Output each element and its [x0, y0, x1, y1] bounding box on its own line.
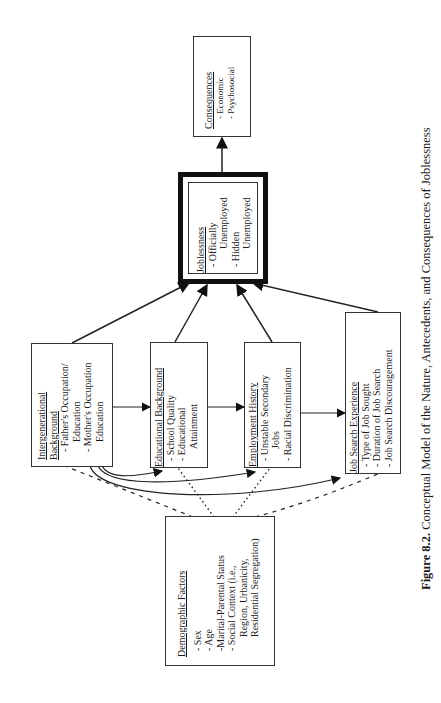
- figure-caption-text: Conceptual Model of the Nature, Antecede…: [419, 127, 433, 529]
- consequences-item: - Psychosocial: [226, 67, 238, 129]
- consequences-box: Consequences - Economic - Psychosocial: [193, 36, 251, 137]
- joblessness-item: Unemployed: [218, 197, 230, 273]
- demographic-item: - Age: [203, 538, 215, 657]
- joblessness-item: Unemployed: [241, 197, 253, 273]
- employment-title: Employment History: [247, 367, 259, 467]
- educational-title: Educational Background: [153, 368, 165, 467]
- educational-item: Attainment: [188, 368, 200, 467]
- consequences-item: - Economic: [215, 67, 227, 129]
- jobsearch-item: - Job Search Discouragement: [383, 350, 395, 473]
- intergenerational-item: - Mother's Occupation: [82, 362, 94, 460]
- employment-item: Jobs: [270, 367, 282, 467]
- employment-history-box: Employment History - Unstable Secondary …: [244, 342, 301, 468]
- joblessness-box: Joblessness - Officially Unemployed - Hi…: [178, 172, 268, 284]
- demographic-item: Residential Segregation): [249, 538, 261, 657]
- dashed-demo-to-jobsearch: [255, 473, 380, 517]
- intergenerational-title: Background: [48, 362, 60, 460]
- employment-item: - Racial Discrimination: [282, 367, 294, 467]
- jobsearch-item: - Duration of Job Search: [371, 350, 383, 473]
- demographic-item: - Sex: [192, 538, 204, 657]
- demographic-item: Region, Urbanicity,: [238, 538, 250, 657]
- arrow-intergen-to-joblessness: [72, 283, 189, 343]
- joblessness-title: Joblessness: [195, 197, 207, 273]
- dashed-demo-to-intergen: [65, 466, 193, 517]
- arrow-employ-to-joblessness: [237, 285, 272, 342]
- jobsearch-item: - Type of Job Sought: [360, 350, 372, 473]
- arrow-educ-to-joblessness: [175, 285, 207, 342]
- employment-item: - Unstable Secondary: [259, 367, 271, 467]
- arrow-jobsearch-to-joblessness: [253, 283, 378, 312]
- dotted-demo-to-educ: [178, 468, 214, 517]
- educational-item: - Educational: [176, 368, 188, 467]
- educational-item: - School Quality: [165, 368, 177, 467]
- intergenerational-item: Education: [94, 362, 106, 460]
- demographic-title: Demographic Factors: [176, 538, 188, 657]
- job-search-experience-box: Job Search Experience - Type of Job Soug…: [345, 312, 401, 474]
- figure-caption: Figure 8.2. Conceptual Model of the Natu…: [419, 127, 434, 590]
- educational-background-box: Educational Background - School Quality …: [150, 342, 208, 468]
- joblessness-item: - Officially: [207, 197, 219, 273]
- intergenerational-item: Education: [71, 362, 83, 460]
- figure-label: Figure 8.2.: [419, 533, 433, 590]
- jobsearch-title: Job Search Experience: [348, 350, 360, 473]
- consequences-title: Consequences: [203, 67, 215, 129]
- curve-intergen-to-employ: [98, 466, 255, 482]
- demographic-item: - Social Context (i.e.,: [226, 538, 238, 657]
- intergenerational-title: Intergenerational: [36, 362, 48, 460]
- intergenerational-background-box: Intergenerational Background - Father's …: [31, 343, 113, 467]
- intergenerational-item: - Father's Occupation/: [59, 362, 71, 460]
- demographic-item: -Marital-Parental Status: [215, 538, 227, 657]
- joblessness-item: - Hidden: [230, 197, 242, 273]
- demographic-factors-box: Demographic Factors - Sex - Age -Marital…: [165, 516, 275, 666]
